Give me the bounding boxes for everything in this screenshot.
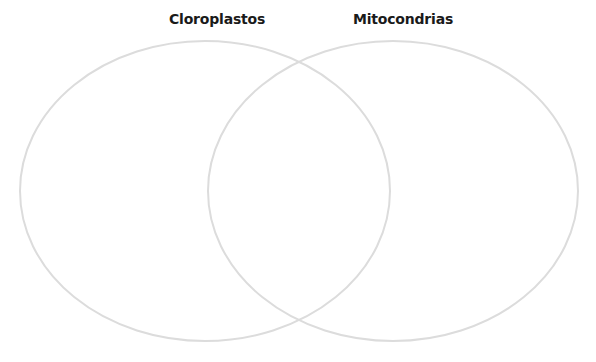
set-label-cloroplastos: Cloroplastos: [169, 11, 265, 27]
region-overlap: [222, 80, 376, 300]
region-cloroplastos-only: [40, 80, 200, 300]
region-mitocondrias-only: [398, 80, 558, 300]
set-label-mitocondrias: Mitocondrias: [353, 11, 453, 27]
